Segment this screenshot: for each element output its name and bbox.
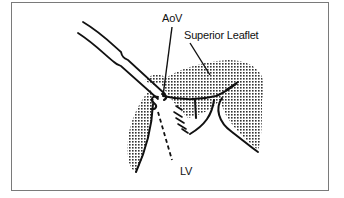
label-superior-leaflet: Superior Leaflet <box>184 29 258 41</box>
label-aov: AoV <box>162 12 182 24</box>
label-lv: LV <box>180 165 192 177</box>
heart-valve-diagram <box>0 0 344 198</box>
catheter <box>78 22 165 99</box>
lv-pointer-dashed-line <box>158 112 172 160</box>
